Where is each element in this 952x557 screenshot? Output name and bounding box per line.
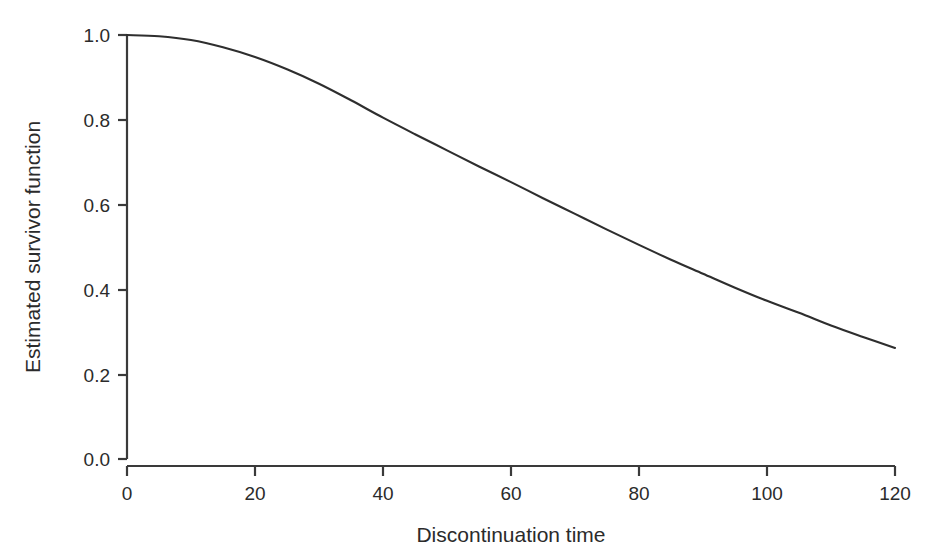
x-tick-label: 120: [879, 483, 911, 504]
chart-canvas: 1.0 0.8 0.6 0.4 0.2 0.0 0 20 40 60 80 10…: [0, 0, 952, 557]
x-tick-label: 60: [500, 483, 521, 504]
x-tick-label: 80: [628, 483, 649, 504]
x-axis-title: Discontinuation time: [416, 523, 605, 546]
y-tick-label: 1.0: [84, 25, 110, 46]
y-tick-label: 0.8: [84, 110, 110, 131]
x-tick-label: 40: [372, 483, 393, 504]
y-tick-label: 0.0: [84, 449, 110, 470]
y-tick-label: 0.4: [84, 280, 111, 301]
x-tick-label: 0: [122, 483, 133, 504]
y-axis-title: Estimated survivor function: [21, 121, 44, 373]
survivor-function-chart: 1.0 0.8 0.6 0.4 0.2 0.0 0 20 40 60 80 10…: [0, 0, 952, 557]
chart-background: [0, 0, 952, 557]
x-tick-label: 20: [244, 483, 265, 504]
y-tick-label: 0.6: [84, 195, 110, 216]
x-tick-label: 100: [751, 483, 783, 504]
y-tick-label: 0.2: [84, 365, 110, 386]
